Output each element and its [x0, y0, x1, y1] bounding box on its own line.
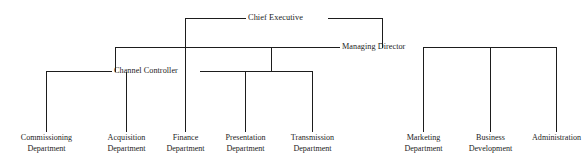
leaf-transmission-department[interactable]: Transmission Department — [270, 133, 355, 154]
leaf-line-1: Transmission — [270, 133, 355, 144]
leaf-line-1: Administration — [514, 133, 586, 144]
leaf-administration[interactable]: Administration — [514, 133, 586, 144]
node-managing-director[interactable]: Managing Director — [342, 42, 405, 53]
leaf-line-2: Department — [0, 144, 93, 155]
leaf-commissioning-department[interactable]: Commissioning Department — [0, 133, 93, 154]
leaf-line-2: Development — [447, 144, 534, 155]
node-chief-executive[interactable]: Chief Executive — [248, 13, 303, 24]
node-channel-controller[interactable]: Channel Controller — [114, 66, 178, 77]
leaf-line-1: Commissioning — [0, 133, 93, 144]
leaf-line-2: Department — [270, 144, 355, 155]
